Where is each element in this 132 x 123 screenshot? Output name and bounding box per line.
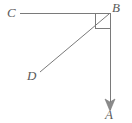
- vertex-label-a: A: [105, 108, 113, 121]
- geometry-figure: C B D A: [0, 0, 132, 123]
- figure-canvas: [0, 0, 132, 123]
- vertex-label-d: D: [27, 69, 36, 82]
- vertex-label-c: C: [7, 6, 16, 19]
- segment-bd: [40, 14, 109, 72]
- vertex-label-b: B: [112, 1, 120, 14]
